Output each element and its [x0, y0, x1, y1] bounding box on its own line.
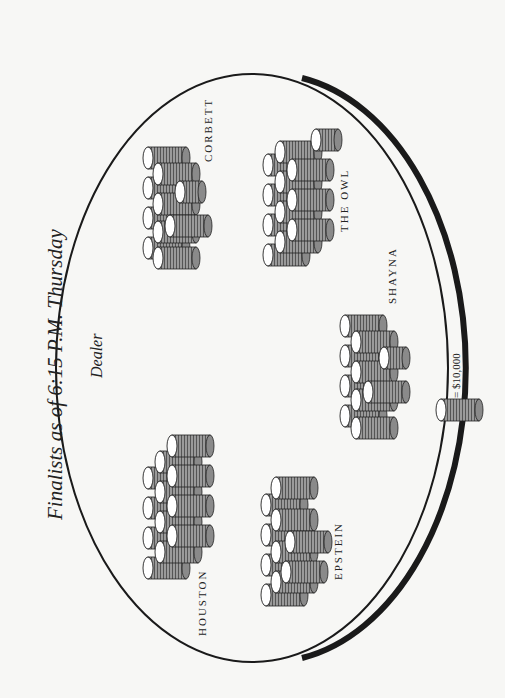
dealer-label: Dealer: [88, 333, 105, 379]
chip-stacks-shayna: [340, 315, 410, 439]
legend-unit-label: = $10,000: [450, 353, 462, 398]
player-shayna: SHAYNA: [340, 247, 410, 439]
poker-table-diagram: Finalists as of 6:15 P.M. Thursday Deale…: [0, 0, 505, 698]
legend: = $10,000: [436, 353, 483, 421]
chip-stacks-houston: [143, 435, 214, 579]
chip-stacks-epstein: [261, 477, 332, 606]
player-name-corbett: CORBETT: [202, 98, 214, 162]
title: Finalists as of 6:15 P.M. Thursday: [43, 229, 67, 521]
player-houston: HOUSTON: [143, 435, 214, 636]
player-name-houston: HOUSTON: [196, 570, 208, 636]
player-epstein: EPSTEIN: [261, 477, 344, 606]
chip-stacks-the-owl: [263, 129, 342, 266]
player-name-shayna: SHAYNA: [386, 247, 398, 304]
player-the-owl: THE OWL: [263, 129, 350, 266]
player-name-the-owl: THE OWL: [338, 169, 350, 232]
player-corbett: CORBETT: [143, 98, 214, 269]
chip-stacks-corbett: [143, 147, 212, 269]
svg-text:Dealer: Dealer: [88, 333, 105, 379]
legend-chip-stack-icon: [436, 399, 483, 421]
title-text: Finalists as of 6:15 P.M. Thursday: [43, 229, 67, 521]
player-name-epstein: EPSTEIN: [332, 522, 344, 580]
